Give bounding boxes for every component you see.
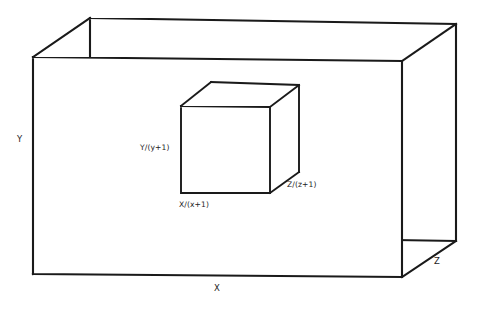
diagram-canvas: Y X Z Y/(y+1) X/(x+1) Z/(z+1) [0, 0, 478, 310]
outer-box-depth-edge-top-left [33, 18, 90, 57]
inner-box-label-x: X/(x+1) [179, 201, 209, 209]
inner-box-front-face [181, 106, 270, 193]
wireframe-svg [0, 0, 478, 310]
outer-box-label-y: Y [17, 135, 22, 144]
inner-box-label-y: Y/(y+1) [140, 144, 170, 152]
outer-box-label-z: Z [434, 257, 440, 266]
outer-box-depth-edge-bottom-right [402, 241, 456, 277]
outer-box-label-x: X [214, 284, 220, 293]
inner-box-label-z: Z/(z+1) [287, 181, 317, 189]
